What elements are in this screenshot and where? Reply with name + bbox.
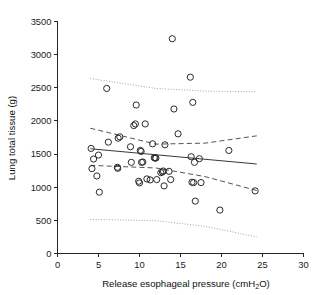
x-axis-title: Release esophageal pressure (cmH2O)	[102, 278, 270, 291]
data-point	[133, 102, 139, 108]
y-tick-label: 500	[36, 215, 52, 226]
y-tick-label: 1000	[31, 182, 52, 193]
data-point	[104, 85, 110, 91]
data-point	[142, 121, 148, 127]
data-point	[89, 166, 95, 172]
prediction-band-lower	[90, 219, 256, 237]
data-point	[154, 176, 160, 182]
data-point	[132, 121, 138, 127]
data-point	[169, 36, 175, 42]
data-point	[187, 74, 193, 80]
data-point	[127, 144, 133, 150]
data-point	[175, 131, 181, 137]
data-point	[117, 134, 123, 140]
data-point	[105, 139, 111, 145]
data-point	[96, 189, 102, 195]
x-tick-label: 15	[175, 259, 185, 270]
data-point	[94, 173, 100, 179]
data-point	[168, 176, 174, 182]
y-tick-label: 3000	[31, 49, 52, 60]
y-tick-label: 2500	[31, 82, 52, 93]
data-point	[190, 99, 196, 105]
x-tick-label: 20	[216, 259, 226, 270]
x-tick-label: 30	[298, 259, 308, 270]
y-axis-ticks: 0500100015002000250030003500	[31, 16, 58, 259]
y-tick-label: 3500	[31, 16, 52, 27]
data-point	[171, 106, 177, 112]
x-axis-ticks: 051015202530	[55, 254, 309, 270]
x-tick-label: 10	[134, 259, 144, 270]
x-axis-title-main: Release esophageal pressure (cmH	[102, 278, 255, 289]
data-point	[128, 159, 134, 165]
x-tick-label: 0	[55, 259, 60, 270]
x-tick-label: 5	[96, 259, 101, 270]
plot-canvas: 0500100015002000250030003500 05101520253…	[0, 0, 324, 295]
data-point	[95, 152, 101, 158]
scatter-plot-figure: 0500100015002000250030003500 05101520253…	[0, 0, 324, 295]
y-axis-title: Lung total tissue (g)	[6, 96, 17, 180]
data-point	[217, 207, 223, 213]
data-point	[188, 154, 194, 160]
y-tick-label: 2000	[31, 115, 52, 126]
data-point	[198, 179, 204, 185]
prediction-band-upper	[90, 79, 256, 92]
data-point	[131, 122, 137, 128]
data-point	[252, 188, 258, 194]
data-point	[226, 147, 232, 153]
y-tick-label: 1500	[31, 148, 52, 159]
x-tick-label: 25	[257, 259, 267, 270]
data-points	[88, 36, 258, 214]
y-tick-label: 0	[46, 248, 51, 259]
data-point	[162, 142, 168, 148]
data-point	[192, 198, 198, 204]
x-axis-title-tail: O)	[259, 278, 270, 289]
data-point	[161, 183, 167, 189]
